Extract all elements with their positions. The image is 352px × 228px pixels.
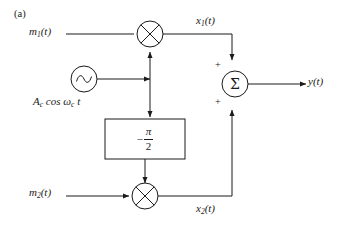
label-m1: m1(t) xyxy=(29,26,51,39)
phase-shift-fraction: − π 2 xyxy=(137,126,154,152)
label-m1-symbol: m xyxy=(29,25,37,37)
label-m1-argument: (t) xyxy=(41,25,51,37)
label-m2-symbol: m xyxy=(29,186,37,198)
figure-caption: (a) xyxy=(14,9,26,20)
label-y-output: y(t) xyxy=(308,76,323,87)
carrier-time-symbol: t xyxy=(77,95,80,107)
carrier-cos-label: cos xyxy=(46,95,61,107)
label-m2-argument: (t) xyxy=(41,186,51,198)
phase-shift-fraction-stack: π 2 xyxy=(144,126,154,152)
phase-shift-denominator: 2 xyxy=(144,141,154,153)
label-carrier-expression: Ac cos ωc t xyxy=(33,96,80,109)
summer-plus-sign-bottom: + xyxy=(215,96,221,107)
label-x2-argument: (t) xyxy=(205,202,215,214)
label-m2: m2(t) xyxy=(29,187,51,200)
figure-canvas: (a) m1(t) m2(t) x1(t) x2(t) y(t) Ac cos … xyxy=(0,0,352,228)
summer-plus-sign-top: + xyxy=(215,59,221,70)
block-diagram-svg xyxy=(0,0,352,228)
phase-shifter-content: − π 2 xyxy=(105,119,185,159)
oscillator-sine-path xyxy=(77,76,92,83)
label-x1-argument: (t) xyxy=(205,14,215,26)
carrier-omega-symbol: ω xyxy=(63,95,71,107)
summer-sigma-glyph: Σ xyxy=(222,71,248,97)
label-x2: x2(t) xyxy=(196,203,215,216)
carrier-amplitude-symbol: A xyxy=(33,95,40,107)
label-y-argument: (t) xyxy=(313,75,323,87)
label-x1: x1(t) xyxy=(196,15,215,28)
phase-shift-minus-sign: − xyxy=(137,133,143,145)
phase-shift-numerator: π xyxy=(144,126,154,138)
